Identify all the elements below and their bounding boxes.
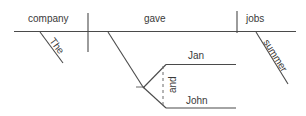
sentence-diagram-canvas: company The gave jobs summer Jan and Joh… [0, 0, 306, 116]
label-subject: company [28, 13, 69, 24]
label-verb: gave [144, 13, 166, 24]
label-subject-article: The [47, 36, 66, 57]
label-indirect-object-b: John [186, 95, 208, 106]
label-conjunction: and [167, 76, 178, 93]
label-direct-object: jobs [245, 13, 264, 24]
sentence-diagram: company The gave jobs summer Jan and Joh… [0, 0, 306, 116]
indirect-object-stem-line [108, 32, 143, 87]
label-indirect-object-a: Jan [188, 50, 204, 61]
label-object-modifier: summer [261, 37, 290, 74]
